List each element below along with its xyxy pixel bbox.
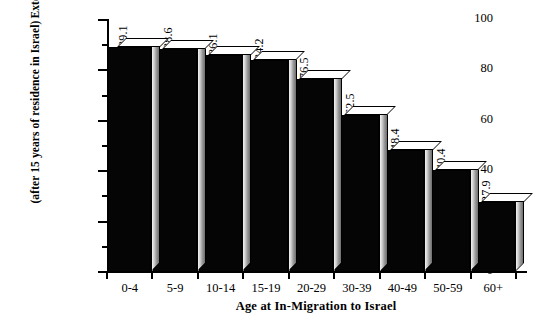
bar-side-face bbox=[379, 106, 388, 273]
bar-top-face bbox=[299, 70, 351, 79]
bar-top-face bbox=[481, 193, 533, 202]
bar-top-face bbox=[208, 46, 260, 55]
x-tick bbox=[151, 272, 153, 279]
x-tick bbox=[515, 272, 517, 279]
x-tick-label-40-49: 40-49 bbox=[388, 281, 417, 296]
bar-side-face bbox=[515, 193, 524, 272]
bar-chart-figure: (after 15 years of residence in Israel) … bbox=[0, 0, 539, 332]
bar-top-face bbox=[253, 51, 305, 60]
bar-side-face bbox=[288, 51, 297, 272]
x-tick-label-50-59: 50-59 bbox=[433, 281, 462, 296]
x-tick-label-20-29: 20-29 bbox=[297, 281, 326, 296]
x-tick-label-0-4: 0-4 bbox=[121, 281, 138, 296]
plot-area bbox=[107, 20, 525, 272]
bar-top-face bbox=[162, 40, 214, 49]
x-tick bbox=[470, 272, 472, 279]
bar-top-face bbox=[390, 141, 442, 150]
y-tick-60 bbox=[98, 120, 107, 122]
x-tick-label-10-14: 10-14 bbox=[206, 281, 235, 296]
x-axis-title: Age at In-Migration to Israel bbox=[107, 299, 525, 314]
y-tick-40 bbox=[98, 170, 107, 172]
x-tick-label-30-39: 30-39 bbox=[342, 281, 371, 296]
y-tick-80 bbox=[98, 69, 107, 71]
y-tick-20 bbox=[98, 221, 107, 223]
y-axis-title: (after 15 years of residence in Israel) … bbox=[15, 0, 55, 173]
x-tick bbox=[288, 272, 290, 279]
bar-side-face bbox=[333, 70, 342, 272]
bar-top-face bbox=[344, 106, 396, 115]
bar-side-face bbox=[424, 141, 433, 272]
bar-side-face bbox=[242, 46, 251, 272]
bar-top-face bbox=[435, 161, 487, 170]
y-axis-title-line-1: Extent of Use of Hebrew bbox=[29, 0, 42, 19]
x-tick bbox=[379, 272, 381, 279]
y-axis-title-line-2: (after 15 years of residence in Israel) bbox=[29, 21, 42, 204]
bar-side-face bbox=[197, 40, 206, 272]
bar-front-face bbox=[108, 47, 151, 272]
x-tick-label-15-19: 15-19 bbox=[251, 281, 280, 296]
x-tick bbox=[242, 272, 244, 279]
x-tick bbox=[197, 272, 199, 279]
y-tick-100 bbox=[98, 19, 107, 21]
x-tick bbox=[106, 272, 108, 279]
bar-side-face bbox=[151, 38, 160, 272]
x-tick bbox=[424, 272, 426, 279]
x-tick-label-60+: 60+ bbox=[483, 281, 503, 296]
bar-0-4 bbox=[108, 47, 151, 272]
x-tick bbox=[333, 272, 335, 279]
bar-side-face bbox=[470, 161, 479, 272]
x-tick-label-5-9: 5-9 bbox=[167, 281, 184, 296]
